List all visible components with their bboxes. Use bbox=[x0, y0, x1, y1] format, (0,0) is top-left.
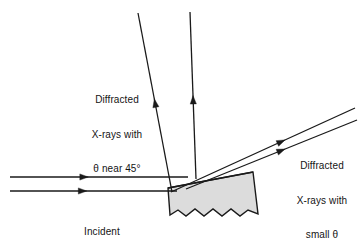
label-diffracted-xrays-theta-near-45: Diffracted X-rays with θ near 45° bbox=[74, 71, 160, 198]
label-line-3: small θ bbox=[283, 229, 361, 241]
label-specimen: Specimen bbox=[177, 224, 247, 242]
label-incident-xrays: Incident X-rays bbox=[66, 203, 138, 242]
label-line-3: θ near 45° bbox=[74, 163, 160, 175]
label-line-1: Incident bbox=[66, 226, 138, 238]
label-line-1: Diffracted bbox=[283, 160, 361, 172]
diffracted-left-ray-2-arrowhead bbox=[190, 96, 196, 105]
xrd-diagram: Diffracted X-rays with θ near 45° Diffra… bbox=[0, 0, 361, 242]
label-line-1: Diffracted bbox=[74, 94, 160, 106]
label-line-2: X-rays with bbox=[283, 195, 361, 207]
label-diffracted-xrays-small-theta: Diffracted X-rays with small θ bbox=[283, 137, 361, 242]
label-line-2: X-rays with bbox=[74, 129, 160, 141]
